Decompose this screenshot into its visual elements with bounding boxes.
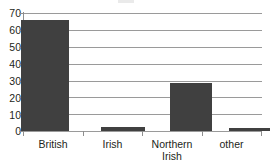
bar-chart: 70 60 50 40 30 20 10 0: [0, 0, 270, 168]
x-axis-tick: [202, 131, 203, 136]
bottom-edge: [0, 166, 270, 168]
top-crop-artifact: [118, 0, 134, 3]
y-axis-tick-label: 50: [0, 42, 21, 52]
bar-northern-irish: [170, 83, 212, 131]
x-axis-label-other: other: [202, 138, 261, 150]
x-axis-label-irish: Irish: [83, 138, 142, 150]
bars-container: [23, 13, 262, 131]
bar-other: [229, 128, 270, 131]
x-axis-label-northern-irish: Northern Irish: [142, 138, 202, 162]
y-axis-tick-label: 0: [0, 126, 21, 136]
x-axis-tick: [83, 131, 84, 136]
x-axis-tick: [261, 131, 262, 136]
y-axis-tick-label: 20: [0, 93, 21, 103]
bar-irish: [101, 127, 145, 131]
x-axis-tick: [23, 131, 24, 136]
y-axis-tick-label: 30: [0, 76, 21, 86]
y-axis-tick-label: 60: [0, 25, 21, 35]
x-axis-label-british: British: [23, 138, 83, 150]
y-axis-tick-label: 10: [0, 110, 21, 120]
x-axis-tick: [142, 131, 143, 136]
y-axis-tick-label: 40: [0, 59, 21, 69]
y-axis-tick-label: 70: [0, 8, 21, 18]
bar-british: [21, 20, 69, 131]
